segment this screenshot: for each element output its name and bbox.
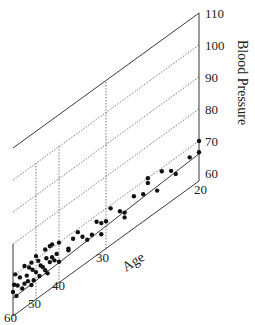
data-point	[34, 254, 38, 258]
data-point	[27, 265, 31, 269]
data-point	[188, 155, 192, 159]
data-point	[37, 274, 41, 278]
data-point	[104, 219, 108, 223]
chart-frame	[13, 13, 199, 316]
data-point	[160, 169, 164, 173]
z-axis-title: Blood Pressure	[235, 40, 250, 125]
bp-tick-label: 60	[205, 166, 218, 181]
data-point	[132, 194, 136, 198]
age-tick-label: 50	[28, 296, 41, 311]
axis-labels: 607080901001102030405060	[4, 6, 225, 325]
data-point	[48, 260, 52, 264]
data-point	[141, 192, 145, 196]
data-point	[99, 221, 103, 225]
data-point	[155, 188, 159, 192]
data-point	[80, 235, 84, 239]
data-point	[50, 255, 54, 259]
data-point	[85, 238, 89, 242]
age-tick-label: 20	[194, 182, 207, 197]
data-point	[57, 260, 61, 264]
data-point	[18, 275, 22, 279]
age-tick-label: 40	[52, 278, 65, 293]
data-point	[14, 294, 18, 298]
data-point	[94, 220, 98, 224]
data-point	[71, 237, 75, 241]
data-point	[29, 260, 33, 264]
bp-tick-label: 110	[205, 6, 224, 21]
data-point	[197, 150, 201, 154]
data-point	[44, 256, 48, 260]
data-point	[32, 278, 36, 282]
data-point	[108, 206, 112, 210]
data-point	[43, 247, 47, 251]
data-point	[11, 290, 15, 294]
data-point	[174, 172, 178, 176]
data-point	[76, 230, 80, 234]
data-point	[22, 281, 26, 285]
data-point	[122, 210, 126, 214]
data-point	[146, 176, 150, 180]
data-point	[20, 286, 24, 290]
data-point	[169, 169, 173, 173]
bp-tick-label: 70	[205, 134, 218, 149]
data-point	[25, 273, 29, 277]
x-axis-title: Age	[119, 249, 147, 274]
data-point	[55, 252, 59, 256]
bp-tick-label: 90	[205, 70, 218, 85]
data-point	[13, 272, 17, 276]
data-point	[38, 263, 42, 267]
data-point	[118, 209, 122, 213]
data-point	[66, 248, 70, 252]
data-point	[57, 240, 61, 244]
data-point	[90, 233, 94, 237]
data-point	[146, 181, 150, 185]
data-point	[29, 283, 33, 287]
data-point	[12, 283, 16, 287]
age-tick-label: 60	[4, 310, 17, 325]
data-point	[36, 259, 40, 263]
scatter-3d-chart: 607080901001102030405060 Blood Pressure …	[0, 0, 255, 325]
data-point	[99, 232, 103, 236]
bp-tick-label: 100	[205, 38, 225, 53]
bp-tick-label: 80	[205, 102, 218, 117]
data-point	[22, 264, 26, 268]
data-point	[122, 215, 126, 219]
data-point	[48, 244, 52, 248]
data-point	[197, 139, 201, 143]
age-tick-label: 30	[96, 250, 109, 265]
